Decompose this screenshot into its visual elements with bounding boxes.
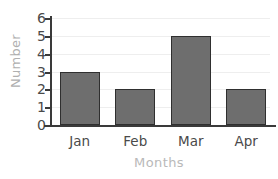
bar [171, 36, 211, 125]
bar [60, 72, 100, 126]
x-axis-tick-label: Mar [163, 131, 219, 151]
y-axis-tick-mark [45, 54, 52, 56]
y-axis-tick-label: 4 [28, 47, 46, 61]
x-axis-title: Months [40, 155, 278, 170]
y-axis-tick-mark [45, 72, 52, 74]
y-axis-tick-label: 1 [28, 100, 46, 114]
y-axis-tick-label: 2 [28, 82, 46, 96]
bar-chart: Number 0123456 JanFebMarApr Months [0, 0, 278, 179]
y-axis-tick-mark [45, 18, 52, 20]
y-axis-tick-label: 6 [28, 11, 46, 25]
x-axis-tick-label: Apr [219, 131, 275, 151]
y-axis-tick-label: 3 [28, 65, 46, 79]
bar-series [52, 18, 274, 125]
bar [115, 89, 155, 125]
y-axis-tick-mark [45, 107, 52, 109]
x-axis-tick-labels: JanFebMarApr [52, 131, 274, 153]
y-axis-tick-label: 5 [28, 29, 46, 43]
x-axis-tick-label: Feb [108, 131, 164, 151]
y-axis-tick-mark [45, 36, 52, 38]
y-axis-tick-mark [45, 125, 52, 127]
x-axis-tick-label: Jan [52, 131, 108, 151]
y-axis-tick-mark [45, 89, 52, 91]
y-axis-tick-labels: 0123456 [10, 0, 46, 179]
bar [226, 89, 266, 125]
x-axis-line [44, 125, 276, 127]
